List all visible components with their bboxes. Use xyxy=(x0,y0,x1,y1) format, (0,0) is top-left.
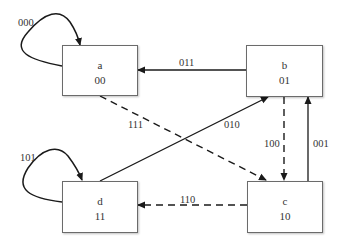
label-111: 111 xyxy=(128,119,143,130)
state-b: b 01 xyxy=(246,45,323,97)
state-b-name: b xyxy=(247,58,322,73)
label-101: 101 xyxy=(20,152,36,163)
arrow-a-to-c xyxy=(100,96,266,180)
state-a-code: 00 xyxy=(63,73,137,88)
state-d: d 11 xyxy=(62,181,138,233)
label-001: 001 xyxy=(313,138,329,149)
state-c-code: 10 xyxy=(248,209,322,224)
state-c-name: c xyxy=(248,194,322,209)
label-000: 000 xyxy=(18,17,34,28)
label-010: 010 xyxy=(224,119,240,130)
state-c: c 10 xyxy=(247,181,323,233)
state-d-code: 11 xyxy=(63,209,137,224)
label-110: 110 xyxy=(180,194,195,205)
state-a-name: a xyxy=(63,58,137,73)
state-a: a 00 xyxy=(62,45,138,96)
state-d-name: d xyxy=(63,194,137,209)
label-011: 011 xyxy=(179,57,194,68)
label-100: 100 xyxy=(264,138,280,149)
state-b-code: 01 xyxy=(247,73,322,88)
